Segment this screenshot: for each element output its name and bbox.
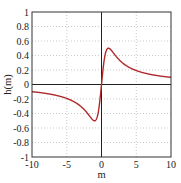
chart: 10.80.60.40.20-0.2-0.4-0.6-0.8-1 -10-505… [0, 0, 181, 183]
y-tick-label: 0.4 [17, 50, 30, 61]
y-tick-label: -0.8 [13, 137, 29, 148]
y-tick-label: -0.6 [13, 123, 29, 134]
y-tick-label: 0.6 [17, 36, 30, 47]
y-tick-label: -0.4 [13, 108, 29, 119]
y-tick-label: 0.2 [17, 65, 30, 76]
y-tick-label: 1 [24, 7, 29, 18]
y-tick-label: -0.2 [13, 94, 29, 105]
y-tick-labels: 10.80.60.40.20-0.2-0.4-0.6-0.8-1 [13, 7, 29, 163]
x-tick-label: 5 [134, 159, 139, 170]
x-axis-label: m [97, 169, 105, 180]
x-tick-label: 10 [166, 159, 176, 170]
x-tick-label: -10 [25, 159, 38, 170]
x-tick-label: -5 [63, 159, 71, 170]
y-tick-label: 0 [24, 79, 29, 90]
y-tick-label: 0.8 [17, 21, 30, 32]
y-axis-label: h(m) [2, 74, 14, 95]
